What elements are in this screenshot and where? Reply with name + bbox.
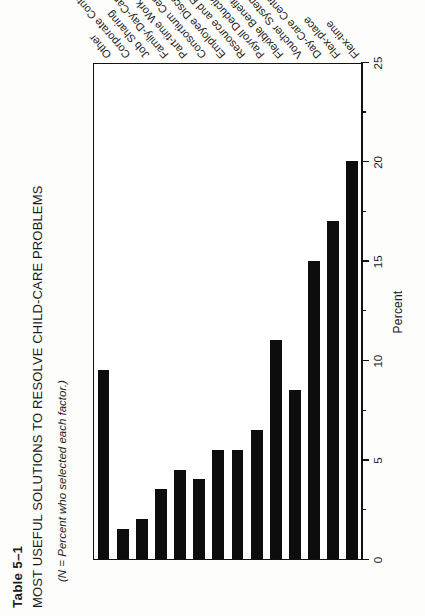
- bar: [136, 519, 148, 559]
- bar: [327, 221, 339, 559]
- bar: [212, 450, 224, 559]
- x-tick-label: 20: [372, 156, 384, 169]
- bar: [174, 470, 186, 559]
- x-tick-minor: [361, 111, 366, 112]
- x-tick: [361, 360, 369, 361]
- x-tick-label: 0: [372, 557, 384, 563]
- x-tick: [361, 161, 369, 162]
- x-tick-minor: [361, 410, 366, 411]
- table-title: MOST USEFUL SOLUTIONS TO RESOLVE CHILD-C…: [30, 188, 45, 608]
- bar: [308, 261, 320, 559]
- x-tick-label: 5: [372, 457, 384, 463]
- x-tick: [361, 459, 369, 460]
- x-tick-label: 10: [372, 355, 384, 368]
- bar: [289, 390, 301, 559]
- bar: [232, 450, 244, 559]
- x-tick-minor: [361, 509, 366, 510]
- x-axis-title: Percent: [391, 291, 405, 334]
- table-number: Table 5–1: [10, 188, 25, 608]
- table-subtitle: (N = Percent who selected each factor.): [56, 188, 68, 582]
- x-tick: [361, 62, 369, 63]
- bar: [193, 479, 205, 559]
- scanned-page: Table 5–1 MOST USEFUL SOLUTIONS TO RESOL…: [0, 0, 425, 616]
- x-tick-label: 15: [372, 255, 384, 268]
- x-axis-line: [361, 63, 363, 560]
- bar: [155, 489, 167, 559]
- x-tick-minor: [361, 211, 366, 212]
- x-tick: [361, 260, 369, 261]
- bar: [251, 430, 263, 559]
- plot-area: [93, 63, 361, 560]
- x-tick-label: 25: [372, 57, 384, 70]
- bar: [270, 340, 282, 559]
- bar: [98, 370, 110, 559]
- rotated-content: Table 5–1 MOST USEFUL SOLUTIONS TO RESOL…: [0, 0, 425, 616]
- x-tick: [361, 559, 369, 560]
- table-caption: Table 5–1 MOST USEFUL SOLUTIONS TO RESOL…: [10, 188, 68, 608]
- x-tick-minor: [361, 310, 366, 311]
- bar: [346, 161, 358, 559]
- bar: [117, 529, 129, 559]
- bar-chart: 0510152025 Percent Flex-timeFlex-placeDa…: [93, 20, 393, 560]
